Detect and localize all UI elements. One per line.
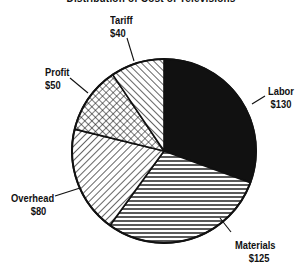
label-tariff-value: $40 (110, 27, 133, 40)
label-labor: Labor $130 (268, 85, 294, 111)
pie-chart (0, 0, 302, 275)
label-overhead-value: $80 (11, 205, 54, 218)
label-profit-value: $50 (45, 79, 69, 92)
label-overhead: Overhead $80 (11, 192, 54, 218)
label-labor-name: Labor (268, 85, 294, 98)
label-materials-name: Materials (235, 239, 276, 252)
pie-slices (72, 59, 256, 243)
leader-line-profit (70, 78, 88, 93)
label-materials-value: $125 (235, 252, 276, 265)
label-labor-value: $130 (268, 98, 294, 111)
label-tariff-name: Tariff (110, 14, 133, 27)
label-profit-name: Profit (45, 66, 69, 79)
label-materials: Materials $125 (235, 239, 276, 265)
leader-line-labor (252, 96, 265, 104)
leader-line-tariff (127, 38, 134, 61)
label-overhead-name: Overhead (11, 192, 54, 205)
label-profit: Profit $50 (45, 66, 69, 92)
label-tariff: Tariff $40 (110, 14, 133, 40)
leader-line-overhead (55, 188, 80, 196)
